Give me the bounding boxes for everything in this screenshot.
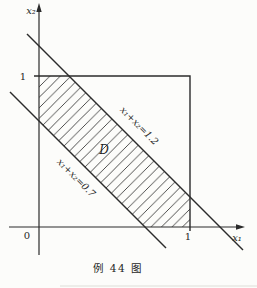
y-axis-label: x₂ (26, 5, 36, 16)
region-d-label: D (98, 143, 109, 157)
y-tick-label-1: 1 (20, 71, 26, 82)
figure-canvas: x₂ x₁ 0 1 1 x₁+x₂=1.2 x₁+x₂=0.7 D 例 44 图 (0, 0, 257, 288)
y-axis-arrow-icon (36, 3, 41, 12)
origin-label: 0 (24, 230, 30, 241)
region-d-hatch (39, 76, 190, 227)
x-axis-label: x₁ (232, 232, 242, 243)
figure-caption: 例 44 图 (93, 262, 142, 274)
x-axis-arrow-icon (236, 224, 245, 229)
x-tick-label-1: 1 (185, 231, 191, 242)
textbook-figure-page: x₂ x₁ 0 1 1 x₁+x₂=1.2 x₁+x₂=0.7 D 例 44 图 (0, 0, 257, 288)
